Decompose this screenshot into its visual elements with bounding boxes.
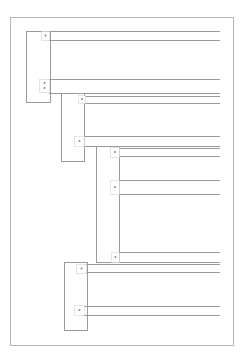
port-2[interactable]	[40, 80, 50, 93]
port-pin-icon	[45, 35, 47, 37]
outer-frame	[11, 18, 234, 346]
port-pin-icon	[114, 151, 116, 153]
port-pin-icon	[44, 82, 46, 84]
port-box	[40, 80, 50, 93]
block-3[interactable]	[97, 147, 120, 263]
block-2[interactable]	[62, 94, 85, 162]
port-1[interactable]	[42, 32, 50, 41]
port-4[interactable]	[75, 137, 85, 147]
port-pin-icon	[81, 98, 83, 100]
wire-group	[49, 32, 220, 316]
port-pin-icon	[115, 256, 117, 258]
port-6[interactable]	[111, 181, 120, 195]
port-5[interactable]	[111, 148, 120, 158]
port-9[interactable]	[75, 306, 85, 316]
port-pin-icon	[114, 186, 116, 188]
port-7[interactable]	[112, 253, 120, 263]
diagram-canvas	[0, 0, 244, 362]
port-8[interactable]	[77, 265, 87, 274]
block-group	[27, 32, 120, 331]
port-pin-icon	[79, 309, 81, 311]
port-pin-icon	[79, 140, 81, 142]
port-3[interactable]	[79, 96, 86, 104]
port-pin-icon	[44, 87, 46, 89]
port-pin-icon	[81, 268, 83, 270]
